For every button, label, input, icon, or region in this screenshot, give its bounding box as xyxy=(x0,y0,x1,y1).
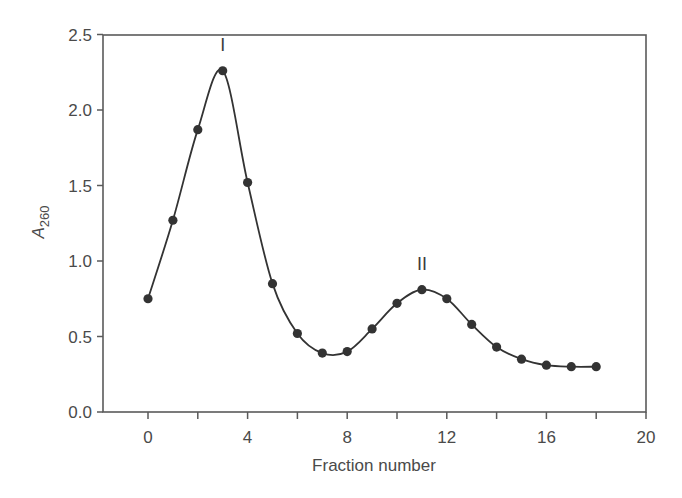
peak-label: I xyxy=(220,35,225,55)
x-tick-label: 4 xyxy=(243,428,252,447)
data-point xyxy=(293,329,302,338)
data-point xyxy=(467,320,476,329)
svg-text:A260: A260 xyxy=(29,205,52,239)
y-axis-title-main: A xyxy=(29,227,48,239)
data-point xyxy=(193,125,202,134)
y-tick-label: 0.5 xyxy=(68,328,92,347)
y-tick-label: 2.5 xyxy=(68,26,92,45)
data-markers xyxy=(143,66,600,371)
data-point xyxy=(492,342,501,351)
x-axis-ticks: 048121620 xyxy=(143,412,655,447)
plot-frame xyxy=(103,35,646,412)
y-tick-label: 1.0 xyxy=(68,252,92,271)
peak-annotations: III xyxy=(220,35,427,274)
data-point xyxy=(392,299,401,308)
x-tick-label: 0 xyxy=(143,428,152,447)
y-tick-label: 2.0 xyxy=(68,101,92,120)
data-curve xyxy=(148,70,596,367)
data-point xyxy=(368,324,377,333)
y-tick-label: 1.5 xyxy=(68,177,92,196)
data-point xyxy=(592,362,601,371)
data-point xyxy=(268,279,277,288)
peak-label: II xyxy=(417,254,427,274)
x-tick-label: 12 xyxy=(437,428,456,447)
data-point xyxy=(143,294,152,303)
x-tick-label: 16 xyxy=(537,428,556,447)
chart: 0.00.51.01.52.02.5 048121620 III Fractio… xyxy=(0,0,682,498)
data-point xyxy=(318,349,327,358)
y-tick-label: 0.0 xyxy=(68,403,92,422)
data-point xyxy=(168,216,177,225)
x-axis-title: Fraction number xyxy=(312,456,436,475)
data-point xyxy=(542,361,551,370)
y-axis-title: A260 xyxy=(29,205,52,239)
data-point xyxy=(417,285,426,294)
data-point xyxy=(517,355,526,364)
y-axis-title-subscript: 260 xyxy=(37,205,52,227)
y-axis-ticks: 0.00.51.01.52.02.5 xyxy=(68,26,103,423)
data-point xyxy=(567,362,576,371)
data-point xyxy=(243,178,252,187)
data-point xyxy=(343,347,352,356)
data-point xyxy=(442,294,451,303)
x-tick-label: 20 xyxy=(637,428,656,447)
x-tick-label: 8 xyxy=(342,428,351,447)
data-point xyxy=(218,66,227,75)
